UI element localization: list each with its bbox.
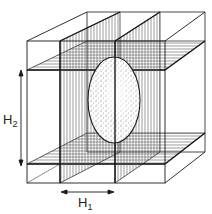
h1-dimension-arrow: [61, 190, 114, 194]
h2-label: H2: [3, 112, 17, 129]
h2-dimension-arrow: [19, 70, 23, 166]
cube-diagram: H2 H1: [0, 0, 212, 214]
h1-label: H1: [78, 195, 92, 212]
ellipsoid: [88, 57, 140, 143]
